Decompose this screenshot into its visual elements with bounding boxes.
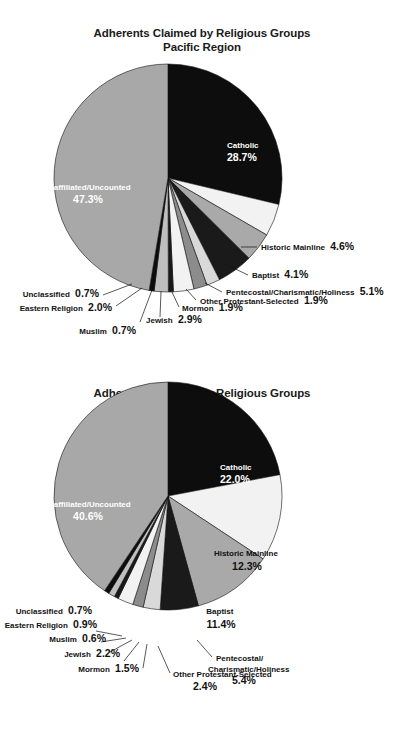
pie-slice: [54, 64, 168, 290]
leader-other-protestant-nat: [158, 646, 170, 673]
leader-other-protestant: [186, 289, 196, 300]
callout-jewish: Jewish 2.9%: [146, 313, 203, 325]
callout-jewish-nat: Jewish 2.2%: [64, 647, 121, 659]
chart-national: Adherents Claimed by Religious Groups Na…: [0, 374, 404, 748]
leader-unclassified: [103, 284, 132, 295]
callout-muslim: Muslim 0.7%: [79, 324, 136, 336]
leader-pentecostal-nat: [197, 640, 212, 657]
leader-eastern: [116, 288, 142, 306]
pie-chart-pacific: Catholic 28.7% Unaffiliated/Uncounted 47…: [0, 0, 404, 374]
callout-baptist: Baptist 4.1%: [252, 268, 309, 280]
leader-jewish: [160, 291, 161, 317]
pie-chart-national: Catholic 22.0% Historic Mainline 12.3% B…: [0, 374, 404, 748]
leader-jewish-nat: [124, 642, 139, 661]
callout-muslim-nat: Muslim 0.6%: [49, 632, 106, 644]
callout-other-protestant-nat: Other Protestant-Selected 2.4%: [173, 670, 274, 692]
leader-mormon: [172, 292, 179, 307]
callout-unclassified-nat: Unclassified 0.7%: [16, 604, 93, 616]
callout-eastern-religion: Eastern Religion 2.0%: [20, 301, 113, 313]
slice-label-baptist-nat: Baptist 11.4%: [206, 607, 236, 630]
callout-mormon-nat: Mormon 1.5%: [78, 662, 139, 674]
leader-pentecostal: [205, 283, 222, 292]
leader-mormon-nat: [143, 644, 147, 668]
slice-label-catholic: Catholic 28.7%: [227, 141, 261, 163]
pie-slices-national: [54, 382, 282, 610]
slice-label-catholic-nat: Catholic 22.0%: [220, 463, 254, 485]
callout-historic-mainline: Historic Mainline 4.6%: [261, 240, 355, 252]
pie-slices-pacific: [54, 64, 282, 292]
callout-unclassified: Unclassified 0.7%: [23, 287, 100, 299]
callout-eastern-religion-nat: Eastern Religion 0.9%: [5, 618, 98, 630]
chart-pacific-region: Adherents Claimed by Religious Groups Pa…: [0, 0, 404, 374]
